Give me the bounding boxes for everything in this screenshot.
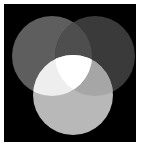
venn-canvas xyxy=(4,4,136,142)
venn-diagram-svg xyxy=(4,4,136,142)
venn-figure xyxy=(0,0,147,153)
